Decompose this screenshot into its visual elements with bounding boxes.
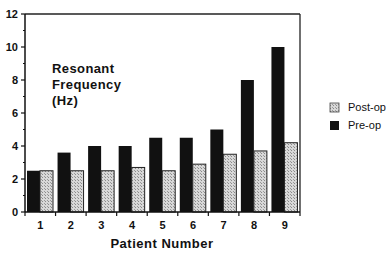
legend-label-pre-op: Pre-op xyxy=(348,119,381,131)
bar-post-op xyxy=(284,143,297,212)
bar-group-patient-3 xyxy=(88,146,114,212)
x-tick-label: 5 xyxy=(159,219,165,231)
bar-post-op xyxy=(40,171,53,212)
legend-label-post-op: Post-op xyxy=(348,101,386,113)
y-axis: 024681012 xyxy=(6,8,25,218)
legend-swatch-pre-op xyxy=(330,121,339,130)
bar-post-op xyxy=(132,167,145,212)
legend: Post-op Pre-op xyxy=(330,101,386,131)
bar-pre-op xyxy=(210,130,223,213)
x-axis-title: Patient Number xyxy=(110,236,213,251)
y-tick-label: 6 xyxy=(12,107,18,119)
x-tick-label: 4 xyxy=(129,219,136,231)
bar-pre-op xyxy=(271,47,284,212)
bar-group-patient-2 xyxy=(58,153,84,212)
bar-post-op xyxy=(101,171,114,212)
annotation-line-3: (Hz) xyxy=(52,93,78,108)
x-tick-label: 2 xyxy=(68,219,74,231)
annotation-line-1: Resonant xyxy=(52,61,115,76)
bar-pre-op xyxy=(119,146,132,212)
bar-pre-op xyxy=(58,153,71,212)
legend-swatch-post-op xyxy=(330,103,339,112)
bar-post-op xyxy=(162,171,175,212)
bar-pre-op xyxy=(241,80,254,212)
y-tick-label: 0 xyxy=(12,206,18,218)
y-axis-annotation: Resonant Frequency (Hz) xyxy=(52,61,122,108)
annotation-line-2: Frequency xyxy=(52,77,122,92)
legend-item-pre-op: Pre-op xyxy=(330,119,381,131)
y-tick-label: 12 xyxy=(6,8,18,20)
bar-pre-op xyxy=(149,138,162,212)
y-tick-label: 10 xyxy=(6,41,18,53)
y-tick-label: 4 xyxy=(12,140,19,152)
bar-group-patient-6 xyxy=(180,138,206,212)
bar-group-patient-1 xyxy=(27,171,53,212)
bar-post-op xyxy=(254,151,267,212)
bar-group-patient-9 xyxy=(271,47,297,212)
x-tick-label: 7 xyxy=(221,219,227,231)
bar-group-patient-8 xyxy=(241,80,267,212)
bar-group-patient-4 xyxy=(119,146,145,212)
bar-group-patient-7 xyxy=(210,130,236,213)
y-tick-label: 8 xyxy=(12,74,18,86)
bar-post-op xyxy=(193,164,206,212)
bar-group-patient-5 xyxy=(149,138,175,212)
x-tick-label: 8 xyxy=(251,219,257,231)
x-tick-label: 9 xyxy=(282,219,288,231)
bar-pre-op xyxy=(180,138,193,212)
bar-pre-op xyxy=(27,171,40,212)
x-axis: 123456789 xyxy=(25,212,300,231)
x-tick-label: 3 xyxy=(98,219,104,231)
x-tick-label: 6 xyxy=(190,219,196,231)
bar-pre-op xyxy=(88,146,101,212)
y-tick-label: 2 xyxy=(12,173,18,185)
bar-post-op xyxy=(71,171,84,212)
x-tick-label: 1 xyxy=(37,219,43,231)
bar-chart: 024681012 123456789 Resonant Frequency (… xyxy=(0,0,388,255)
legend-item-post-op: Post-op xyxy=(330,101,386,113)
bar-post-op xyxy=(223,154,236,212)
